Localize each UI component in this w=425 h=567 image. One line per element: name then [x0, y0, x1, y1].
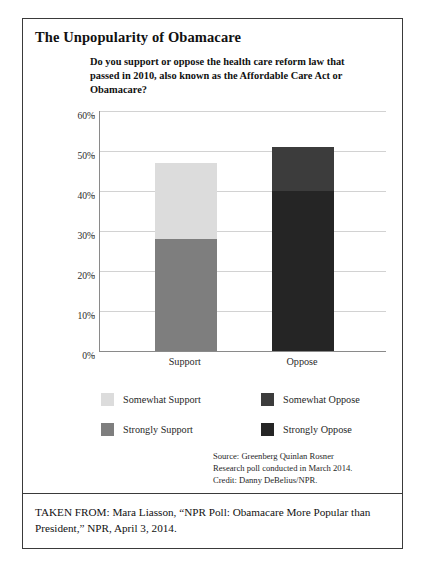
x-axis-label-support: Support [135, 356, 235, 367]
gridline [100, 271, 386, 272]
legend-label: Somewhat Support [123, 394, 201, 405]
attribution-footer: TAKEN FROM: Mara Liasson, “NPR Poll: Oba… [35, 505, 387, 537]
legend-label: Strongly Oppose [283, 424, 352, 435]
y-tick-label: 30% [39, 230, 95, 241]
gridline [100, 111, 386, 112]
bar-segment-somewhat-oppose [272, 147, 334, 191]
y-tick-label: 10% [39, 310, 95, 321]
bar-oppose [272, 147, 334, 351]
gridline [100, 231, 386, 232]
bar-segment-somewhat-support [155, 163, 217, 239]
y-tick-label: 0% [39, 350, 95, 361]
stacked-bar-chart: 0%10%20%30%40%50%60% SupportOppose [35, 107, 392, 377]
legend-label: Somewhat Oppose [283, 394, 360, 405]
legend-label: Strongly Support [123, 424, 193, 435]
bar-segment-strongly-support [155, 239, 217, 351]
source-credit: Source: Greenberg Quinlan Rosner Researc… [213, 451, 393, 487]
figure-card: The Unpopularity of Obamacare Do you sup… [22, 18, 403, 549]
y-tick-label: 40% [39, 190, 95, 201]
bar-segment-strongly-oppose [272, 191, 334, 351]
footer-divider [23, 493, 402, 494]
chart-question-subtitle: Do you support or oppose the health care… [90, 55, 368, 96]
source-line-3: Credit: Danny DeBelius/NPR. [213, 475, 393, 487]
y-tick-label: 60% [39, 110, 95, 121]
source-line-1: Source: Greenberg Quinlan Rosner [213, 451, 393, 463]
gridline [100, 191, 386, 192]
source-line-2: Research poll conducted in March 2014. [213, 463, 393, 475]
figure-title: The Unpopularity of Obamacare [35, 29, 241, 46]
gridline [100, 151, 386, 152]
y-axis: 0%10%20%30%40%50%60% [35, 111, 95, 351]
legend-swatch-icon [261, 423, 274, 436]
plot-area [99, 111, 386, 352]
legend-swatch-icon [101, 423, 114, 436]
legend-item: Somewhat Support [101, 393, 201, 406]
legend-swatch-icon [101, 393, 114, 406]
bar-support [155, 163, 217, 351]
legend-item: Strongly Support [101, 423, 193, 436]
gridline [100, 311, 386, 312]
legend-swatch-icon [261, 393, 274, 406]
legend-item: Somewhat Oppose [261, 393, 360, 406]
y-tick-label: 20% [39, 270, 95, 281]
x-axis-label-oppose: Oppose [252, 356, 352, 367]
chart-legend: Somewhat SupportStrongly SupportSomewhat… [101, 393, 391, 449]
y-tick-label: 50% [39, 150, 95, 161]
legend-item: Strongly Oppose [261, 423, 352, 436]
